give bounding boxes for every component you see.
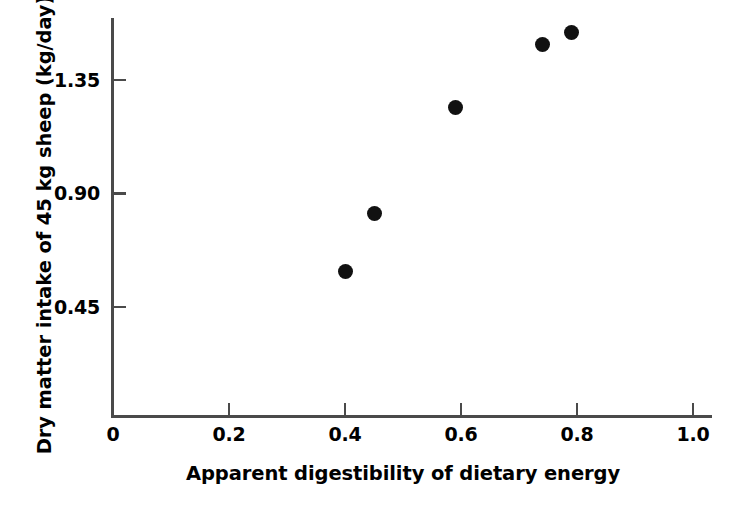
data-point: [338, 264, 353, 279]
x-tick-label: 1.0: [658, 425, 728, 444]
data-point: [535, 37, 550, 52]
y-tick-label: 0.90: [20, 184, 100, 203]
x-axis-title: Apparent digestibility of dietary energy: [113, 462, 693, 485]
x-tick-mark: [228, 403, 231, 416]
x-tick-label: 0.2: [194, 425, 264, 444]
scatter-chart: Dry matter intake of 45 kg sheep (kg/day…: [0, 0, 754, 512]
y-tick-label: 0.45: [20, 298, 100, 317]
x-tick-mark: [692, 403, 695, 416]
y-tick-mark: [113, 79, 126, 82]
x-tick-label: 0: [78, 425, 148, 444]
y-tick-label: 1.35: [20, 71, 100, 90]
x-tick-label: 0.6: [426, 425, 496, 444]
y-tick-mark: [113, 306, 126, 309]
x-tick-label: 0.8: [542, 425, 612, 444]
y-tick-mark: [113, 192, 126, 195]
x-axis-line: [111, 415, 712, 418]
x-tick-label: 0.4: [310, 425, 380, 444]
data-point: [564, 25, 579, 40]
x-tick-mark: [344, 403, 347, 416]
x-tick-mark: [460, 403, 463, 416]
data-point: [448, 100, 463, 115]
x-tick-mark: [576, 403, 579, 416]
data-point: [367, 206, 382, 221]
